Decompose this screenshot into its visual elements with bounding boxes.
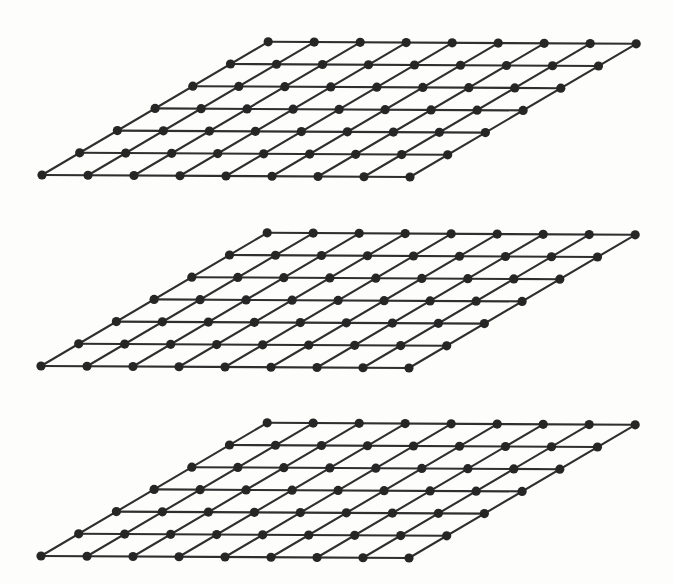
- lattice-node: [309, 228, 318, 237]
- lattice-node: [380, 486, 389, 495]
- lattice-node: [264, 37, 273, 46]
- lattice-node: [288, 296, 297, 305]
- lattice-node: [305, 149, 314, 158]
- lattice-node: [233, 463, 242, 472]
- lattice-node: [36, 551, 45, 560]
- lattice-node: [389, 128, 398, 137]
- lattice-node: [187, 273, 196, 282]
- lattice-node: [334, 296, 343, 305]
- lattice-node: [493, 229, 502, 238]
- lattice-node: [539, 230, 548, 239]
- lattice-node: [221, 171, 230, 180]
- lattice-node: [37, 170, 46, 179]
- lattice-node: [296, 508, 305, 517]
- lattice-node: [631, 420, 640, 429]
- lattice-node: [325, 463, 334, 472]
- lattice-node: [397, 150, 406, 159]
- lattice-node: [447, 229, 456, 238]
- lattice-node: [158, 507, 167, 516]
- lattice-node: [271, 441, 280, 450]
- lattice-node: [166, 340, 175, 349]
- lattice-node: [540, 39, 549, 48]
- lattice-node: [279, 273, 288, 282]
- lattice-node: [358, 363, 367, 372]
- lattice-node: [364, 60, 373, 69]
- lattice-node: [463, 274, 472, 283]
- lattice-node: [481, 128, 490, 137]
- lattice-node: [355, 229, 364, 238]
- lattice-node: [556, 84, 565, 93]
- lattice-node: [585, 230, 594, 239]
- lattice-node: [304, 530, 313, 539]
- lattice-node: [226, 59, 235, 68]
- lattice-figure: [0, 0, 673, 584]
- lattice-node: [280, 82, 289, 91]
- lattice-node: [371, 274, 380, 283]
- lattice-node: [350, 341, 359, 350]
- lattice-node: [250, 318, 259, 327]
- lattice-node: [547, 442, 556, 451]
- lattice-node: [548, 61, 557, 70]
- lattice-node: [594, 61, 603, 70]
- lattice-node: [150, 295, 159, 304]
- lattice-node: [472, 297, 481, 306]
- lattice-node: [267, 172, 276, 181]
- lattice-node: [196, 485, 205, 494]
- lattice-node: [518, 297, 527, 306]
- lattice-node: [401, 229, 410, 238]
- lattice-node: [242, 485, 251, 494]
- lattice-node: [279, 463, 288, 472]
- lattice-node: [128, 362, 137, 371]
- lattice-node: [518, 487, 527, 496]
- lattice-node: [409, 441, 418, 450]
- lattice-node: [585, 420, 594, 429]
- lattice-node: [312, 553, 321, 562]
- lattice-node: [334, 486, 343, 495]
- lattice-node: [112, 317, 121, 326]
- lattice-node: [342, 318, 351, 327]
- lattice-node: [388, 508, 397, 517]
- lattice-node: [113, 126, 122, 135]
- lattice-node: [388, 319, 397, 328]
- lattice-node: [372, 83, 381, 92]
- lattice-node: [443, 150, 452, 159]
- lattice-node: [74, 529, 83, 538]
- lattice-node: [82, 362, 91, 371]
- lattice-node: [405, 172, 414, 181]
- lattice-node: [258, 530, 267, 539]
- lattice-node: [426, 296, 435, 305]
- lattice-node: [351, 150, 360, 159]
- lattice-node: [263, 418, 272, 427]
- lattice-node: [472, 487, 481, 496]
- lattice-node: [310, 37, 319, 46]
- lattice-node: [435, 128, 444, 137]
- lattice-node: [480, 509, 489, 518]
- lattice-node: [83, 171, 92, 180]
- lattice-node: [159, 126, 168, 135]
- lattice-node: [401, 419, 410, 428]
- lattice-node: [151, 104, 160, 113]
- lattice-node: [205, 127, 214, 136]
- lattice-node: [409, 251, 418, 260]
- lattice-node: [359, 172, 368, 181]
- lattice-node: [442, 531, 451, 540]
- lattice-node: [342, 508, 351, 517]
- lattice-node: [266, 553, 275, 562]
- lattice-node: [272, 60, 281, 69]
- lattice-node: [204, 507, 213, 516]
- lattice-node: [396, 531, 405, 540]
- lattice-node: [350, 531, 359, 540]
- lattice-node: [380, 296, 389, 305]
- lattice-node: [317, 441, 326, 450]
- lattice-node: [166, 530, 175, 539]
- lattice-node: [251, 127, 260, 136]
- lattice-node: [463, 464, 472, 473]
- lattice-node: [417, 464, 426, 473]
- lattice-node: [129, 171, 138, 180]
- lattice-node: [313, 172, 322, 181]
- lattice-node: [121, 148, 130, 157]
- lattice-node: [220, 362, 229, 371]
- lattice-node: [447, 419, 456, 428]
- lattice-node: [158, 317, 167, 326]
- lattice-node: [120, 339, 129, 348]
